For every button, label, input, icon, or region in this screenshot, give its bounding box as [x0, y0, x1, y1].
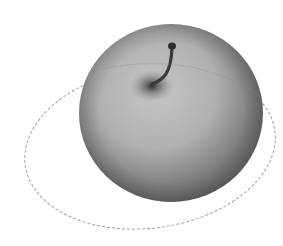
- apple-dimple: [130, 70, 174, 102]
- apple-illustration: [0, 0, 283, 246]
- apple-stem-tip: [168, 43, 176, 50]
